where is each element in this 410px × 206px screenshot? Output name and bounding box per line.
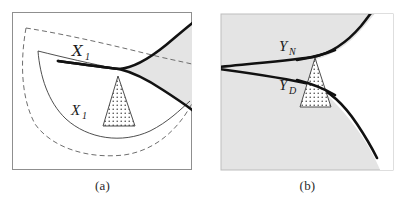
figure-container: 𝑋 1 X 1 (a) [0, 0, 410, 206]
panel-a-canvas: 𝑋 1 X 1 [0, 0, 205, 176]
panel-b-canvas: Y N Y D [205, 0, 410, 176]
label-x1: X [70, 102, 81, 118]
panel-b: Y N Y D (b) [205, 0, 410, 206]
caption-b: (b) [205, 178, 410, 194]
label-x1-sub: 1 [82, 110, 87, 121]
label-script-x1: 𝑋 [71, 42, 84, 60]
caption-a: (a) [0, 178, 205, 194]
label-yn-sub: N [288, 46, 297, 57]
label-script-x1-sub: 1 [85, 51, 90, 62]
panel-a: 𝑋 1 X 1 (a) [0, 0, 205, 206]
label-yd-sub: D [288, 85, 297, 96]
